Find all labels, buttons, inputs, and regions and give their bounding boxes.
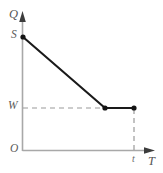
- chart-plot-area: [0, 0, 163, 173]
- data-point-marker-end: [131, 105, 136, 110]
- chart-figure: Q T S W O t: [0, 0, 163, 173]
- x-axis-arrowhead-icon: [144, 147, 155, 153]
- y-tick-label-w: W: [8, 100, 18, 112]
- data-point-marker-kink: [102, 105, 107, 110]
- y-axis-arrowhead-icon: [19, 11, 26, 22]
- x-tick-label-t: t: [132, 154, 135, 164]
- data-point-marker-s: [20, 34, 25, 39]
- x-axis-label: T: [148, 155, 155, 168]
- q-of-t-curve: [23, 37, 134, 108]
- origin-label: O: [10, 143, 18, 155]
- y-axis-label: Q: [9, 8, 18, 21]
- y-tick-label-s: S: [11, 29, 17, 41]
